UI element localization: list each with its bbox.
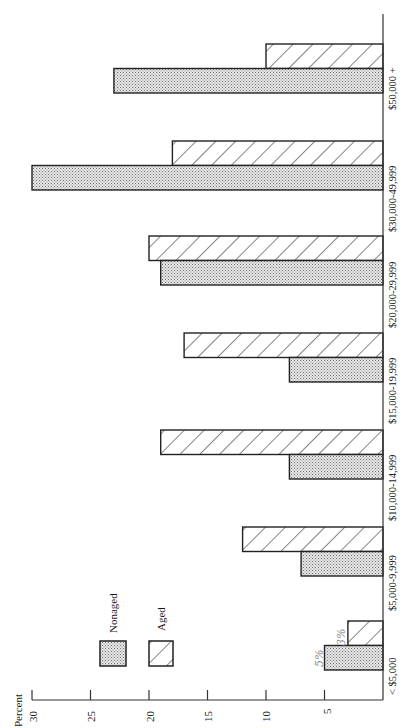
category-label-20000-29999: $20,000-29,999	[387, 262, 398, 329]
tick-label-20: 20	[144, 711, 156, 722]
legend-swatch-nonaged	[100, 641, 126, 666]
income-distribution-chart: Percent 30 25 20 15 10 5 Nonaged Aged < …	[0, 0, 408, 728]
legend-label-aged: Aged	[155, 607, 167, 631]
legend-label-nonaged: Nonaged	[107, 593, 119, 633]
category-label-15000-19999: $15,000-19,999	[387, 358, 398, 425]
category-label-50000-plus: $50,000 +	[387, 67, 398, 110]
tick-label-15: 15	[202, 711, 214, 722]
bar-aged	[348, 621, 383, 646]
tick-label-10: 10	[260, 711, 272, 722]
handwritten-annotation-aged: 3%	[335, 629, 348, 646]
category-label-under-5000: < $5,000	[387, 658, 398, 695]
tick-label-30: 30	[27, 711, 39, 722]
bar-nonaged	[301, 552, 383, 577]
category-label-5000-9999: $5,000-9,999	[387, 555, 398, 611]
bar-nonaged	[161, 261, 383, 286]
bar-aged	[243, 527, 383, 552]
legend-swatch-aged	[149, 641, 173, 666]
value-axis-title: Percent	[12, 694, 24, 727]
bar-group	[32, 44, 383, 670]
bar-aged	[266, 44, 383, 69]
category-label-30000-49999: $30,000-49,999	[387, 166, 398, 233]
bar-nonaged	[32, 166, 383, 191]
bar-aged	[161, 430, 383, 455]
category-label-10000-14999: $10,000-14,999	[387, 455, 398, 522]
bar-nonaged	[289, 358, 383, 383]
bar-nonaged	[289, 455, 383, 480]
tick-label-5: 5	[321, 709, 333, 715]
handwritten-annotation-nonaged: 5%	[313, 650, 326, 667]
bar-nonaged	[114, 69, 383, 94]
bar-aged	[184, 333, 383, 358]
bar-aged	[172, 141, 383, 166]
value-axis-ticks	[32, 690, 325, 700]
tick-label-25: 25	[85, 711, 97, 722]
chart-plot-area	[0, 0, 408, 728]
bar-aged	[149, 236, 383, 261]
bar-nonaged	[325, 646, 384, 671]
